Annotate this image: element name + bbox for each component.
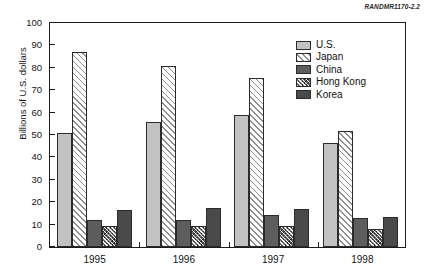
bar-japan-1997	[249, 78, 264, 247]
y-axis-tick-label: 20	[31, 196, 42, 207]
bar-hong-kong-1996	[191, 226, 206, 247]
legend-swatch-japan	[296, 53, 311, 62]
chart-figure: RANDMR1170-2.2 Billions of U.S. dollars …	[0, 0, 426, 274]
y-axis-tick-label: 40	[31, 151, 42, 162]
bar-u-s-1996	[146, 122, 161, 247]
bar-korea-1998	[383, 217, 398, 247]
legend-item-japan: Japan	[296, 52, 366, 62]
y-axis-tick-label: 30	[31, 174, 42, 185]
legend-label-u-s: U.S.	[316, 40, 335, 50]
bar-group-1996	[139, 23, 228, 247]
bar-group-1995	[50, 23, 139, 247]
y-axis-tick-label: 60	[31, 107, 42, 118]
y-axis-tick-label: 100	[26, 17, 42, 28]
bar-japan-1998	[338, 131, 353, 247]
bar-hong-kong-1997	[279, 226, 294, 247]
legend-item-u-s: U.S.	[296, 40, 366, 50]
legend-item-korea: Korea	[296, 90, 366, 100]
bar-china-1997	[264, 215, 279, 247]
legend-swatch-u-s	[296, 41, 311, 50]
bar-korea-1995	[117, 210, 132, 247]
x-axis-label-1998: 1998	[351, 254, 373, 265]
x-axis-label-1996: 1996	[173, 254, 195, 265]
bar-china-1995	[87, 220, 102, 247]
bar-hong-kong-1998	[368, 229, 383, 247]
bar-china-1996	[176, 220, 191, 247]
legend-item-china: China	[296, 65, 366, 75]
y-axis-tick-label: 50	[31, 129, 42, 140]
legend-swatch-china	[296, 65, 311, 74]
bar-korea-1997	[294, 209, 309, 247]
x-axis-tick	[139, 242, 140, 247]
x-axis-tick	[318, 242, 319, 247]
x-axis-label-1997: 1997	[262, 254, 284, 265]
legend-label-china: China	[316, 65, 342, 75]
y-axis-tick-label: 80	[31, 62, 42, 73]
bar-hong-kong-1995	[102, 226, 117, 247]
y-axis-tick-label: 0	[37, 241, 42, 252]
bar-u-s-1995	[57, 133, 72, 247]
x-axis-label-1995: 1995	[84, 254, 106, 265]
y-axis-tick-label: 70	[31, 84, 42, 95]
bar-japan-1995	[72, 52, 87, 247]
legend-label-japan: Japan	[316, 52, 343, 62]
legend-label-hong-kong: Hong Kong	[316, 77, 366, 87]
bar-korea-1996	[206, 208, 221, 247]
bar-u-s-1998	[323, 143, 338, 247]
bar-u-s-1997	[234, 115, 249, 247]
legend-item-hong-kong: Hong Kong	[296, 77, 366, 87]
legend-swatch-korea	[296, 90, 311, 99]
x-axis-tick	[229, 242, 230, 247]
bar-china-1998	[353, 218, 368, 247]
legend-swatch-hong-kong	[296, 78, 311, 87]
y-axis-tick-label: 10	[31, 219, 42, 230]
y-axis-tick-label: 90	[31, 39, 42, 50]
y-axis-title: Billions of U.S. dollars	[17, 14, 28, 174]
legend: U.S.JapanChinaHong KongKorea	[296, 40, 366, 100]
bar-japan-1996	[161, 66, 176, 247]
source-tag: RANDMR1170-2.2	[365, 3, 420, 10]
legend-label-korea: Korea	[316, 90, 343, 100]
